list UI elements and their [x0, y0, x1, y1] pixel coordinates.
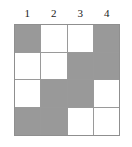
- grid-cell[interactable]: [94, 108, 119, 136]
- grid-table: [14, 24, 120, 136]
- column-header-3: 3: [67, 4, 94, 22]
- grid-cell[interactable]: [41, 25, 67, 53]
- grid-cell[interactable]: [41, 53, 67, 81]
- grid-cell[interactable]: [41, 80, 67, 108]
- grid-cell[interactable]: [68, 108, 94, 136]
- grid-cell[interactable]: [15, 80, 41, 108]
- grid-cell[interactable]: [68, 25, 94, 53]
- column-header-row: 1 2 3 4: [14, 4, 120, 22]
- grid-cell[interactable]: [94, 25, 119, 53]
- column-header-1: 1: [14, 4, 41, 22]
- grid-row: [15, 53, 119, 81]
- grid-cell[interactable]: [41, 108, 67, 136]
- column-header-2: 2: [41, 4, 68, 22]
- grid-cell[interactable]: [15, 25, 41, 53]
- grid-cell[interactable]: [94, 80, 119, 108]
- grid-cell[interactable]: [94, 53, 119, 81]
- grid-figure: 1 2 3 4: [0, 0, 132, 147]
- grid-cell[interactable]: [68, 53, 94, 81]
- column-header-4: 4: [94, 4, 121, 22]
- grid-cell[interactable]: [68, 80, 94, 108]
- grid-cell[interactable]: [15, 108, 41, 136]
- grid-row: [15, 80, 119, 108]
- grid-cell[interactable]: [15, 53, 41, 81]
- grid-row: [15, 108, 119, 136]
- grid-row: [15, 25, 119, 53]
